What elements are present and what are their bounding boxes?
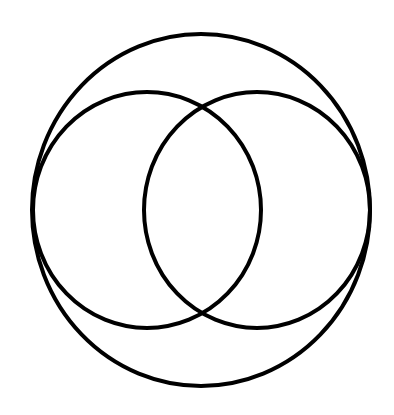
right-inner-circle (144, 92, 370, 328)
outer-circle (32, 34, 370, 386)
diagram-canvas (0, 0, 394, 415)
left-inner-circle (33, 92, 261, 328)
circles-diagram (0, 0, 394, 415)
